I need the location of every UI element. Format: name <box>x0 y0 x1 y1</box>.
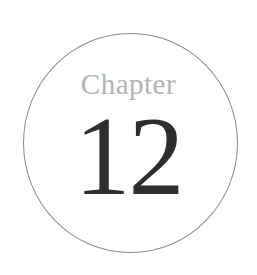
chapter-number: 12 <box>0 100 257 212</box>
